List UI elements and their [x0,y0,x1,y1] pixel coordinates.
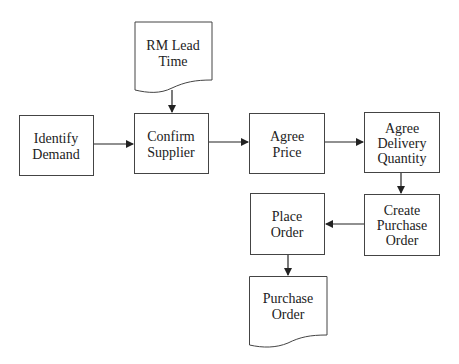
node-label: Price [273,145,302,160]
node-label: Confirm [147,129,195,144]
node-rm-lead-time: RM Lead Time [135,22,212,92]
node-label: Time [158,54,187,69]
node-label: Quantity [378,151,427,166]
node-agree-delivery-quantity: Agree Delivery Quantity [365,113,440,173]
node-label: Identify [34,131,78,146]
node-label: Purchase [377,218,428,233]
node-label: Supplier [147,145,195,160]
node-label: Agree [385,121,419,136]
node-identify-demand: Identify Demand [20,116,94,176]
node-label: Order [386,233,419,248]
node-confirm-supplier: Confirm Supplier [135,114,209,174]
node-label: Demand [32,147,79,162]
node-agree-price: Agree Price [250,114,325,174]
node-label: RM Lead [146,38,199,53]
flowchart: RM Lead Time Identify Demand Confirm Sup… [0,0,459,364]
node-create-purchase-order: Create Purchase Order [365,195,440,256]
node-label: Purchase [263,291,314,306]
node-label: Order [272,307,305,322]
node-label: Agree [270,129,304,144]
node-place-order: Place Order [251,194,325,255]
node-label: Delivery [378,136,427,151]
node-purchase-order: Purchase Order [250,277,328,348]
node-label: Place [272,209,302,224]
node-label: Create [384,203,421,218]
node-label: Order [271,225,304,240]
